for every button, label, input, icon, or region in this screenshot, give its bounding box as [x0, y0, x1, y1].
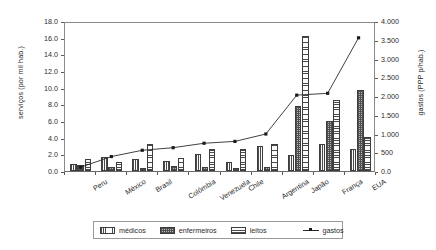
- x-axis-tick-mark: [188, 172, 189, 175]
- legend-label: enfermeiros: [179, 226, 217, 235]
- y-axis-right-title: gastos (PPP p/hab.): [416, 23, 425, 143]
- x-axis-tick-mark: [344, 172, 345, 175]
- x-axis-tick-label: Argentina: [280, 177, 311, 201]
- gastos-line-layer: Peru – gastos: 100México – gastos: 390Br…: [65, 23, 374, 171]
- x-axis-tick-mark: [95, 172, 96, 175]
- legend-label: gastos: [323, 226, 344, 235]
- y-axis-right-tick-mark: [375, 116, 378, 117]
- y-axis-left-tick-label: 4.0: [32, 135, 58, 143]
- x-axis-tick-label: Peru: [91, 177, 109, 193]
- x-axis-tick-label: Venezuela: [218, 177, 251, 202]
- x-axis-tick-label: França: [341, 177, 365, 196]
- y-axis-right-tick-label: 1.000: [381, 131, 411, 139]
- gastos-data-point: Brasil – gastos: 560: [141, 149, 144, 152]
- y-axis-right-tick-mark: [375, 78, 378, 79]
- x-axis-tick-label: EUA: [371, 177, 388, 192]
- plot-area: Peru – gastos: 100México – gastos: 390Br…: [64, 22, 375, 172]
- y-axis-right-tick-label: 2.000: [381, 93, 411, 101]
- x-axis-tick-mark: [157, 172, 158, 175]
- y-axis-left-tick-label: 8.0: [32, 101, 58, 109]
- y-axis-left-tick-mark: [61, 72, 64, 73]
- x-axis-tick-mark: [220, 172, 221, 175]
- legend-item-leitos[interactable]: leitos: [231, 226, 267, 235]
- gastos-data-point: França – gastos: 2100: [326, 92, 329, 95]
- y-axis-left-tick-mark: [61, 105, 64, 106]
- x-axis-tick-mark: [313, 172, 314, 175]
- y-axis-right-tick-mark: [375, 22, 378, 23]
- y-axis-right-tick-mark: [375, 97, 378, 98]
- legend-label: médicos: [119, 226, 146, 235]
- y-axis-left-tick-label: 12.0: [32, 68, 58, 76]
- x-axis-tick-label: Brasil: [153, 177, 173, 194]
- y-axis-left-title: serviços (por mil hab.): [16, 23, 25, 143]
- y-axis-right-tick-mark: [375, 135, 378, 136]
- y-axis-left-tick-mark: [61, 139, 64, 140]
- y-axis-left-tick-mark: [61, 39, 64, 40]
- legend-item-médicos[interactable]: médicos: [100, 226, 146, 235]
- y-axis-left-tick-mark: [61, 55, 64, 56]
- y-axis-left-tick-label: 2.0: [32, 151, 58, 159]
- chart-figure: serviços (por mil hab.) gastos (PPP p/ha…: [0, 0, 436, 250]
- cross-hatch-icon: [160, 227, 175, 234]
- gastos-data-point: Chile – gastos: 800: [233, 140, 236, 143]
- y-axis-left-tick-label: 10.0: [32, 85, 58, 93]
- legend-item-enfermeiros[interactable]: enfermeiros: [160, 226, 217, 235]
- y-axis-left-tick-label: 16.0: [32, 35, 58, 43]
- y-axis-right-tick-mark: [375, 60, 378, 61]
- y-axis-left-tick-mark: [61, 89, 64, 90]
- y-axis-left-tick-label: 18.0: [32, 18, 58, 26]
- y-axis-left-tick-label: 14.0: [32, 51, 58, 59]
- horizontal-stripe-icon: [231, 227, 246, 234]
- y-axis-right-tick-label: 4.000: [381, 18, 411, 26]
- gastos-line: [80, 38, 358, 168]
- y-axis-left-tick-mark: [61, 22, 64, 23]
- x-axis-tick-label: Colômbia: [186, 177, 217, 201]
- gastos-data-point: Venezuela – gastos: 750: [202, 142, 205, 145]
- gastos-data-point: EUA – gastos: 3600: [357, 36, 360, 39]
- gastos-data-point: México – gastos: 390: [110, 155, 113, 158]
- y-axis-right-tick-mark: [375, 153, 378, 154]
- x-axis-tick-label: México: [123, 177, 147, 197]
- y-axis-left-tick-mark: [61, 155, 64, 156]
- y-axis-right-tick-label: 1.500: [381, 112, 411, 120]
- y-axis-left-tick-label: 6.0: [32, 118, 58, 126]
- y-axis-right-tick-label: 0.0: [381, 168, 411, 176]
- y-axis-right-tick-label: 500: [381, 149, 411, 157]
- chart-legend: médicosenfermeirosleitosgastos: [93, 221, 343, 239]
- x-axis-tick-label: Japão: [309, 177, 330, 195]
- y-axis-right-tick-label: 3.000: [381, 56, 411, 64]
- legend-label: leitos: [250, 226, 267, 235]
- gastos-data-point: Peru – gastos: 100: [79, 166, 82, 169]
- gastos-data-point: Japão – gastos: 2050: [295, 94, 298, 97]
- line-marker-icon: [303, 227, 319, 234]
- y-axis-right-tick-label: 2.500: [381, 74, 411, 82]
- x-axis-tick-mark: [251, 172, 252, 175]
- x-axis-tick-mark: [282, 172, 283, 175]
- legend-item-gastos[interactable]: gastos: [303, 226, 344, 235]
- x-axis-tick-mark: [375, 172, 376, 175]
- y-axis-right-tick-mark: [375, 41, 378, 42]
- vertical-stripe-icon: [100, 227, 115, 234]
- y-axis-left-tick-label: 0.0: [32, 168, 58, 176]
- x-axis-tick-mark: [126, 172, 127, 175]
- y-axis-left-tick-mark: [61, 122, 64, 123]
- x-axis-tick-mark: [64, 172, 65, 175]
- gastos-data-point: Colômbia – gastos: 630: [172, 146, 175, 149]
- gastos-data-point: Argentina – gastos: 1000: [264, 132, 267, 135]
- x-axis-tick-label: Chile: [247, 177, 266, 193]
- y-axis-right-tick-label: 3.500: [381, 37, 411, 45]
